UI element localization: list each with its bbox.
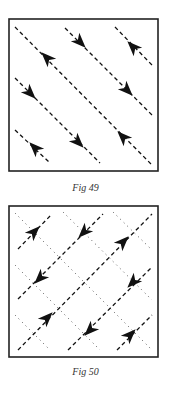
arrow-down-left-icon (123, 273, 142, 292)
fig50-caption: Fig 50 (0, 366, 171, 377)
arrow-down-left-icon (80, 321, 99, 340)
fig50-diagram (0, 0, 171, 393)
dotted-line (113, 212, 152, 250)
arrow-up-right-icon (38, 308, 57, 327)
arrow-down-left-icon (74, 223, 93, 242)
dotted-line (15, 315, 50, 350)
dashed-flow-line (68, 267, 152, 350)
dashed-flow-line (18, 214, 103, 299)
arrow-down-left-icon (30, 269, 49, 288)
arrow-up-right-icon (121, 325, 140, 344)
dotted-line (63, 212, 152, 300)
arrow-up-right-icon (114, 232, 133, 251)
figure-50 (0, 0, 171, 393)
dashed-flow-line (117, 315, 152, 350)
dotted-line (15, 265, 100, 350)
